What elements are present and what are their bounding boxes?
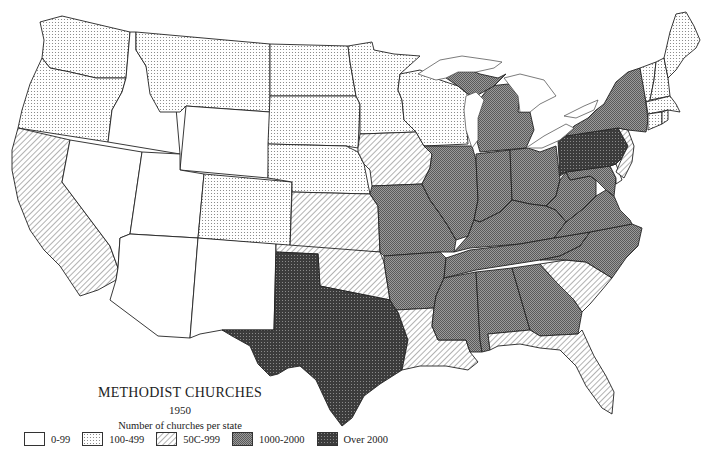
legend-swatch-dots bbox=[82, 432, 103, 446]
states-layer bbox=[12, 12, 700, 426]
legend-swatch-crosshatch bbox=[232, 432, 253, 446]
legend-item-over-2000: Over 2000 bbox=[317, 432, 389, 446]
map-subtitle: Number of churches per state bbox=[60, 420, 300, 431]
legend-swatch-blank bbox=[24, 432, 45, 446]
state-montana[interactable] bbox=[136, 32, 270, 112]
state-kansas[interactable] bbox=[290, 192, 380, 252]
legend-label: Over 2000 bbox=[344, 434, 389, 445]
state-rhode-island[interactable] bbox=[662, 110, 668, 124]
legend-item-0-99: 0-99 bbox=[24, 432, 70, 446]
map-title: METHODIST CHURCHES bbox=[60, 385, 300, 401]
legend-label: 50C-999 bbox=[183, 434, 220, 445]
legend-label: 1000-2000 bbox=[259, 434, 305, 445]
legend-swatch-hatch bbox=[156, 432, 177, 446]
legend-swatch-dark bbox=[317, 432, 338, 446]
state-florida[interactable] bbox=[488, 330, 614, 414]
legend-item-1000-2000: 1000-2000 bbox=[232, 432, 305, 446]
legend: 0-99 100-499 50C-999 1000-2000 Over 2000 bbox=[24, 432, 400, 446]
state-wyoming[interactable] bbox=[180, 106, 270, 178]
state-new-mexico[interactable] bbox=[190, 238, 276, 338]
state-colorado[interactable] bbox=[198, 174, 292, 246]
state-maine[interactable] bbox=[664, 12, 700, 78]
map-title-block: METHODIST CHURCHES 1950 Number of church… bbox=[60, 385, 300, 431]
legend-label: 100-499 bbox=[109, 434, 144, 445]
state-new-york[interactable] bbox=[566, 68, 648, 136]
legend-item-500-999: 50C-999 bbox=[156, 432, 220, 446]
legend-item-100-499: 100-499 bbox=[82, 432, 144, 446]
state-connecticut[interactable] bbox=[648, 112, 662, 130]
state-north-dakota[interactable] bbox=[270, 44, 356, 96]
state-arizona[interactable] bbox=[110, 234, 198, 338]
state-ohio[interactable] bbox=[510, 146, 560, 206]
map-year: 1950 bbox=[60, 404, 300, 416]
state-south-dakota[interactable] bbox=[268, 96, 360, 148]
legend-label: 0-99 bbox=[51, 434, 70, 445]
